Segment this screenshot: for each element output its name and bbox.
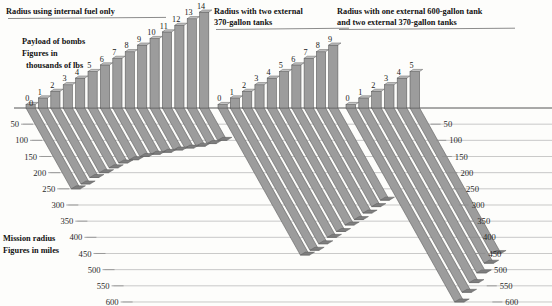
- payload-bar: 7: [112, 48, 125, 108]
- payload-bar-label: 14: [197, 2, 205, 11]
- payload-bar-face: [200, 12, 209, 108]
- payload-bar: 2: [242, 81, 255, 108]
- payload-bar-face: [162, 32, 171, 108]
- payload-bar-face: [304, 58, 313, 108]
- panel-title-line2: 370-gallon tanks: [214, 18, 273, 27]
- payload-bar: 4: [75, 68, 88, 108]
- payload-bar-label: 5: [87, 61, 91, 70]
- panel-title-line2: and two external 370-gallon tanks: [337, 18, 458, 27]
- payload-bar-face: [397, 78, 407, 108]
- payload-bar-label: 6: [291, 55, 295, 64]
- panel-title-underline: [339, 28, 515, 29]
- payload-bar-label: 8: [316, 41, 320, 50]
- axis-tick-left-350: 350: [60, 216, 73, 226]
- axis-tick-left-300: 300: [51, 200, 64, 210]
- payload-bar-face: [346, 105, 356, 109]
- panel-title-1: Radius using internal fuel only: [6, 7, 166, 19]
- payload-bar: 8: [316, 41, 329, 108]
- payload-bar-label: 13: [185, 8, 193, 17]
- payload-bar-label: 5: [279, 61, 283, 70]
- payload-bar: 3: [384, 74, 397, 108]
- infographic-root: 012345678910111213140123456789012345 050…: [0, 0, 552, 306]
- payload-bar-face: [76, 78, 85, 108]
- payload-note-line3: thousands of lbs: [26, 61, 84, 70]
- payload-bar-face: [410, 72, 420, 109]
- payload-bar-face: [175, 25, 184, 108]
- payload-bar: 3: [63, 74, 76, 108]
- payload-bar-label: 4: [397, 68, 401, 77]
- payload-bar-label: 0: [217, 94, 221, 103]
- payload-bar: 5: [87, 61, 100, 108]
- payload-legend-note: Payload of bombs Figures in thousands of…: [22, 37, 86, 70]
- payload-bar-face: [88, 72, 97, 109]
- payload-bar: 5: [279, 61, 292, 108]
- axis-tick-left-400: 400: [70, 232, 83, 242]
- panel-group: 012345678910111213140123456789012345: [25, 2, 506, 302]
- payload-bar-face: [51, 91, 60, 108]
- payload-bar-label: 1: [358, 88, 362, 97]
- payload-bar-face: [267, 78, 276, 108]
- axis-tick-left-250: 250: [42, 184, 55, 194]
- payload-bar: 2: [50, 81, 63, 108]
- payload-bar: 1: [230, 88, 243, 109]
- axis-tick-right-450: 450: [489, 249, 502, 259]
- payload-bar-label: 0: [346, 94, 350, 103]
- payload-bar-label: 3: [254, 74, 258, 83]
- payload-bar: 14: [197, 2, 212, 108]
- payload-bar: 2: [371, 81, 384, 108]
- panel-title-line1: Radius with two external: [214, 7, 303, 16]
- payload-bar-label: 5: [410, 61, 414, 70]
- payload-bar-face: [243, 91, 252, 108]
- payload-bar: 1: [38, 88, 51, 109]
- payload-bar-label: 3: [384, 74, 388, 83]
- payload-bar: 1: [358, 88, 371, 109]
- panel-title-underline: [216, 28, 349, 29]
- payload-bar-face: [125, 52, 134, 108]
- payload-bar-group-2: 0123456789: [217, 35, 341, 108]
- combat-radius-figure: 012345678910111213140123456789012345 050…: [0, 0, 552, 306]
- axis-tick-left-200: 200: [33, 168, 46, 178]
- payload-bar-face: [187, 19, 196, 108]
- radius-strip-group-1: [26, 108, 232, 189]
- axis-tick-right-200: 200: [460, 168, 473, 178]
- axis-tick-right-300: 300: [472, 200, 485, 210]
- payload-bar: 9: [137, 35, 150, 108]
- payload-bar-label: 4: [267, 68, 271, 77]
- payload-bar: 0: [346, 94, 359, 108]
- payload-bar-label: 11: [160, 22, 168, 31]
- axis-tick-left-600: 600: [106, 297, 119, 306]
- payload-bar: 7: [303, 48, 316, 108]
- payload-bar-label: 1: [38, 88, 42, 97]
- payload-bar-face: [38, 98, 47, 108]
- payload-bar: 10: [147, 28, 162, 108]
- axis-tick-left-0: 0: [29, 98, 33, 108]
- payload-note-line1: Payload of bombs: [22, 37, 86, 46]
- payload-bar-face: [100, 65, 109, 108]
- axis-tick-left-500: 500: [88, 265, 101, 275]
- axis-tick-left-150: 150: [24, 152, 37, 162]
- payload-bar-face: [359, 98, 369, 108]
- payload-bar: 0: [217, 94, 230, 108]
- payload-bar-label: 7: [112, 48, 116, 57]
- payload-bar: 6: [291, 55, 304, 109]
- payload-bar: 5: [410, 61, 423, 108]
- payload-bar-face: [138, 45, 147, 108]
- payload-bar-face: [255, 85, 264, 108]
- payload-bar: 9: [328, 35, 341, 108]
- axis-tick-right-50: 50: [444, 119, 453, 129]
- axis-tick-right-600: 600: [505, 297, 518, 306]
- payload-bar-group-3: 012345: [346, 61, 423, 108]
- payload-bar-label: 7: [303, 48, 307, 57]
- axis-tick-right-350: 350: [477, 216, 490, 226]
- payload-bar: 11: [160, 22, 175, 109]
- panel-title-2: Radius with two external370-gallon tanks: [214, 7, 349, 30]
- payload-bar-face: [280, 72, 289, 109]
- payload-bar: 6: [100, 55, 113, 109]
- axis-tick-right-400: 400: [483, 232, 496, 242]
- axis-tick-right-550: 550: [500, 281, 513, 291]
- axis-tick-right-150: 150: [455, 152, 468, 162]
- payload-bar: 4: [267, 68, 280, 108]
- payload-bar-label: 2: [242, 81, 246, 90]
- panel-1: 01234567891011121314: [25, 2, 232, 189]
- payload-bar-label: 10: [147, 28, 155, 37]
